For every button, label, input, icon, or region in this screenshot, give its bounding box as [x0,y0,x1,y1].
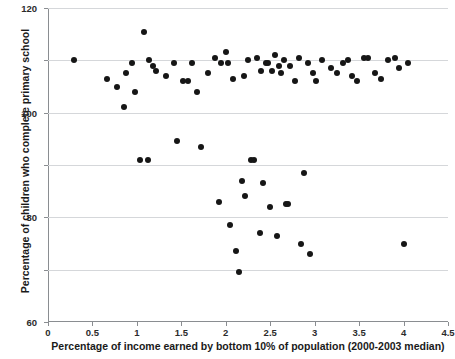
data-point [296,55,302,61]
y-tick-mark: 120 [44,8,48,9]
data-point [241,73,247,79]
x-tick-mark [448,322,449,326]
data-point [385,57,391,63]
data-point [194,89,200,95]
data-point [301,170,307,176]
data-point [258,68,264,74]
x-tick-label-4.5: 4.5 [441,327,454,338]
data-point [233,248,239,254]
data-point [129,60,135,66]
data-point [378,76,384,82]
x-tick-mark [48,322,49,326]
data-point [392,55,398,61]
data-point [137,157,143,163]
data-point [276,63,282,69]
data-point [396,65,402,71]
data-point [267,204,273,210]
x-tick-label-3.5: 3.5 [353,327,366,338]
data-point [242,193,248,199]
x-tick-label-0.5: 0.5 [86,327,99,338]
data-point [218,60,224,66]
gridline-y-40 [48,217,448,218]
data-point [185,78,191,84]
gridline-y-60 [48,165,448,166]
data-point [405,60,411,66]
data-point [269,68,275,74]
plot-area: 020406080100120 00.511.522.533.544.5 [48,8,448,322]
data-point [239,178,245,184]
x-tick-mark [359,322,360,326]
data-point [257,230,263,236]
data-point [225,60,231,66]
gridline-y-120 [48,8,448,9]
data-point [281,57,287,63]
data-point [298,241,304,247]
y-axis-title: Percentage of children who complete prim… [16,0,34,322]
x-tick-mark [92,322,93,326]
x-tick-label-2: 2 [223,327,228,338]
x-tick-label-1: 1 [134,327,139,338]
y-tick-label-120: 120 [21,3,37,14]
data-point [260,180,266,186]
y-tick-label-100: 100 [21,107,37,118]
data-point [141,29,147,35]
data-point [265,60,271,66]
data-point [292,78,298,84]
data-point [401,241,407,247]
data-point [372,70,378,76]
data-point [313,78,319,84]
y-tick-mark: 80 [44,113,48,114]
x-tick-mark [137,322,138,326]
data-point [274,233,280,239]
x-tick-label-0: 0 [45,327,50,338]
data-point [305,60,311,66]
data-point [328,65,334,71]
data-point [71,57,77,63]
data-point [278,70,284,76]
x-tick-label-4: 4 [401,327,406,338]
data-point [216,199,222,205]
data-point [272,52,278,58]
data-point [174,138,180,144]
data-point [104,76,110,82]
x-tick-label-3: 3 [312,327,317,338]
data-point [236,269,242,275]
data-point [198,144,204,150]
data-point [153,68,159,74]
data-point [319,57,325,63]
y-tick-mark: 20 [44,270,48,271]
data-point [189,60,195,66]
data-point [285,201,291,207]
x-tick-label-2.5: 2.5 [264,327,277,338]
data-point [212,55,218,61]
data-point [307,251,313,257]
data-point [251,157,257,163]
x-tick-mark [404,322,405,326]
data-point [223,49,229,55]
x-tick-mark [181,322,182,326]
data-point [227,222,233,228]
data-point [114,84,120,90]
x-tick-mark [315,322,316,326]
scatter-chart-figure: Percentage of children who complete prim… [0,0,455,359]
data-point [345,57,351,63]
y-tick-label-60: 60 [26,317,37,328]
data-point [354,78,360,84]
data-point [365,55,371,61]
data-point [287,63,293,69]
data-point [171,60,177,66]
x-axis-line [48,321,448,322]
data-point [123,70,129,76]
x-tick-mark [226,322,227,326]
data-point [310,70,316,76]
y-tick-mark: 100 [44,60,48,61]
y-tick-label-80: 80 [26,212,37,223]
data-point [334,70,340,76]
x-tick-mark [270,322,271,326]
y-tick-mark: 60 [44,165,48,166]
x-tick-label-1.5: 1.5 [175,327,188,338]
data-point [205,70,211,76]
x-axis-title: Percentage of income earned by bottom 10… [48,340,448,352]
gridline-y-20 [48,270,448,271]
y-tick-mark: 40 [44,217,48,218]
